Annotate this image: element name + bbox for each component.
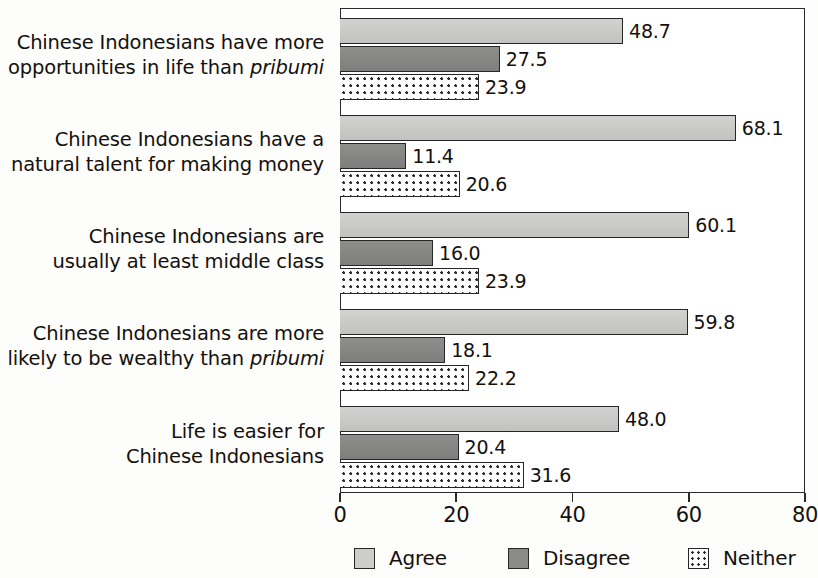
category-label-3-emphasis: pribumi <box>250 347 324 370</box>
grouped-bar-chart: Chinese Indonesians have more opportunit… <box>0 0 818 578</box>
legend-label-disagree: Disagree <box>543 548 630 569</box>
category-label-0-line2: opportunities in life than <box>8 56 250 79</box>
bar-neither-group-4 <box>340 462 524 488</box>
bar-value-disagree-group-2: 16.0 <box>439 244 481 263</box>
x-axis: 020406080 <box>340 493 805 494</box>
bar-value-disagree-group-3: 18.1 <box>451 341 493 360</box>
category-label-1-line1: Chinese Indonesians have a <box>55 128 324 151</box>
bar-disagree-group-3 <box>340 337 445 363</box>
bar-value-neither-group-4: 31.6 <box>530 466 572 485</box>
category-label-0-line1: Chinese Indonesians have more <box>17 31 324 54</box>
category-label-4: Life is easier for Chinese Indonesians <box>0 419 324 469</box>
category-label-1-line2: natural talent for making money <box>11 153 324 176</box>
bar-value-neither-group-0: 23.9 <box>485 78 527 97</box>
bar-neither-group-3 <box>340 365 469 391</box>
bar-value-agree-group-1: 68.1 <box>742 119 784 138</box>
legend-item-neither: Neither <box>688 548 795 569</box>
x-tick-label-60: 60 <box>676 504 702 526</box>
category-label-2: Chinese Indonesians are usually at least… <box>0 224 324 274</box>
bar-value-disagree-group-1: 11.4 <box>412 147 454 166</box>
bar-value-neither-group-1: 20.6 <box>466 175 508 194</box>
x-tick-20 <box>455 493 457 502</box>
category-label-2-line1: Chinese Indonesians are <box>89 225 324 248</box>
x-tick-80 <box>804 493 806 502</box>
x-tick-60 <box>688 493 690 502</box>
category-label-3: Chinese Indonesians are more likely to b… <box>0 321 324 371</box>
bar-agree-group-3 <box>340 309 688 335</box>
bar-value-agree-group-3: 59.8 <box>694 313 736 332</box>
bar-agree-group-4 <box>340 406 619 432</box>
category-label-2-line2: usually at least middle class <box>53 250 324 273</box>
category-label-4-line2: Chinese Indonesians <box>126 445 324 468</box>
bar-neither-group-1 <box>340 171 460 197</box>
x-tick-label-20: 20 <box>443 504 469 526</box>
category-label-0-emphasis: pribumi <box>250 56 324 79</box>
x-tick-label-0: 0 <box>333 504 346 526</box>
bars-layer: 48.727.523.968.111.420.660.116.023.959.8… <box>340 8 805 493</box>
legend-item-disagree: Disagree <box>508 548 630 569</box>
bar-disagree-group-1 <box>340 143 406 169</box>
bar-disagree-group-4 <box>340 434 459 460</box>
bar-agree-group-1 <box>340 115 736 141</box>
bar-value-disagree-group-4: 20.4 <box>465 438 507 457</box>
bar-value-disagree-group-0: 27.5 <box>506 50 548 69</box>
bar-neither-group-2 <box>340 268 479 294</box>
bar-agree-group-2 <box>340 212 689 238</box>
legend-label-neither: Neither <box>723 548 795 569</box>
bar-value-neither-group-3: 22.2 <box>475 369 517 388</box>
legend-item-agree: Agree <box>354 548 447 569</box>
category-label-4-line1: Life is easier for <box>171 420 324 443</box>
legend-label-agree: Agree <box>389 548 447 569</box>
x-tick-label-40: 40 <box>559 504 585 526</box>
bar-neither-group-0 <box>340 74 479 100</box>
legend-swatch-neither-icon <box>688 548 709 569</box>
x-tick-0 <box>339 493 341 502</box>
legend-swatch-agree-icon <box>354 548 375 569</box>
x-tick-40 <box>572 493 574 502</box>
category-label-3-line2: likely to be wealthy than <box>7 347 250 370</box>
bar-disagree-group-2 <box>340 240 433 266</box>
category-axis-labels: Chinese Indonesians have more opportunit… <box>0 8 332 493</box>
bar-disagree-group-0 <box>340 46 500 72</box>
category-label-3-line1: Chinese Indonesians are more <box>33 322 324 345</box>
x-tick-label-80: 80 <box>792 504 818 526</box>
category-label-1: Chinese Indonesians have a natural talen… <box>0 127 324 177</box>
chart-legend: Agree Disagree Neither <box>340 548 818 578</box>
category-label-0: Chinese Indonesians have more opportunit… <box>0 30 324 80</box>
bar-value-agree-group-0: 48.7 <box>629 22 671 41</box>
legend-swatch-disagree-icon <box>508 548 529 569</box>
bar-value-agree-group-4: 48.0 <box>625 410 667 429</box>
bar-agree-group-0 <box>340 18 623 44</box>
bar-value-agree-group-2: 60.1 <box>695 216 737 235</box>
bar-value-neither-group-2: 23.9 <box>485 272 527 291</box>
